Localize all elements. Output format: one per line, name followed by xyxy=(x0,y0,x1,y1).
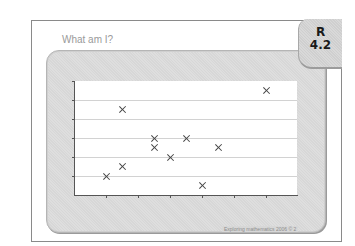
slide-badge: R 4.2 xyxy=(298,19,342,69)
y-tick xyxy=(72,119,75,120)
gridline xyxy=(74,119,297,120)
slide-title: What am I? xyxy=(62,34,113,45)
x-tick xyxy=(202,195,203,198)
x-marker-icon xyxy=(167,154,174,161)
x-marker-icon xyxy=(119,163,126,170)
x-marker-icon xyxy=(103,173,110,180)
x-marker-icon xyxy=(215,144,222,151)
y-tick xyxy=(72,100,75,101)
x-tick xyxy=(234,195,235,198)
x-tick xyxy=(170,195,171,198)
gridline xyxy=(74,100,297,101)
x-axis xyxy=(74,195,298,196)
badge-number: 4.2 xyxy=(299,39,342,52)
gridline xyxy=(74,157,297,158)
x-marker-icon xyxy=(151,144,158,151)
y-tick xyxy=(72,138,75,139)
x-marker-icon xyxy=(263,87,270,94)
x-marker-icon xyxy=(183,135,190,142)
y-tick xyxy=(72,176,75,177)
x-tick xyxy=(138,195,139,198)
footer-credit: Exploring mathematics 2006 © 2 xyxy=(222,226,298,232)
x-tick xyxy=(106,195,107,198)
x-marker-icon xyxy=(151,135,158,142)
x-tick xyxy=(266,195,267,198)
x-marker-icon xyxy=(119,106,126,113)
x-marker-icon xyxy=(199,182,206,189)
y-tick xyxy=(72,81,75,82)
y-tick xyxy=(72,157,75,158)
